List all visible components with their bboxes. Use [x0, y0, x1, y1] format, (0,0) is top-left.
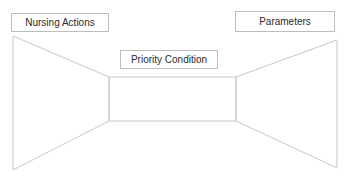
right-panel-shape [236, 40, 337, 168]
left-panel-shape [13, 36, 109, 170]
center-panel-shape [109, 77, 236, 121]
parameters-label: Parameters [259, 16, 311, 27]
parameters-label-box: Parameters [235, 11, 335, 32]
priority-condition-label-box: Priority Condition [120, 50, 218, 69]
priority-condition-label: Priority Condition [131, 54, 207, 65]
nursing-actions-label-box: Nursing Actions [11, 13, 109, 32]
nursing-actions-label: Nursing Actions [25, 17, 94, 28]
